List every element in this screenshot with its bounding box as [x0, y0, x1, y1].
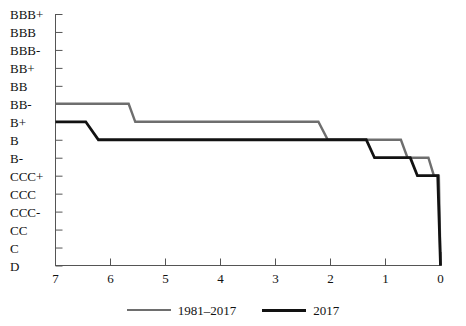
series-line-2017: [56, 122, 441, 266]
x-axis-tick-label: 3: [263, 272, 289, 285]
legend-line-swatch-icon: [127, 309, 171, 311]
legend-label-1981-2017: 1981–2017: [178, 304, 237, 317]
rating-transition-chart: BBB+BBBBBB-BB+BBBB-B+BB-CCC+CCCCCC-CCCD …: [0, 0, 466, 326]
y-axis-tick-label: BBB: [10, 26, 36, 39]
x-axis-tick-label: 5: [153, 272, 179, 285]
x-axis-tick-label: 4: [208, 272, 234, 285]
y-axis-tick-label: CCC-: [10, 206, 40, 219]
y-axis-tick-label: D: [10, 260, 19, 273]
x-axis-ticks: [56, 259, 441, 266]
x-axis-tick-label: 2: [318, 272, 344, 285]
y-axis-tick-label: BBB+: [10, 8, 43, 21]
legend-label-2017: 2017: [313, 304, 339, 317]
y-axis-tick-label: CCC: [10, 188, 36, 201]
series-layer: [56, 104, 441, 266]
x-axis-tick-label: 0: [428, 272, 454, 285]
y-axis-tick-label: CC: [10, 224, 27, 237]
x-axis-tick-label: 1: [373, 272, 399, 285]
y-axis-tick-label: BB: [10, 80, 27, 93]
y-axis-tick-label: CCC+: [10, 170, 43, 183]
y-axis-tick-label: B+: [10, 116, 26, 129]
legend-line-swatch-icon: [262, 309, 306, 312]
y-axis-tick-label: BBB-: [10, 44, 40, 57]
series-line-1981-2017: [56, 104, 441, 266]
y-axis-tick-label: B: [10, 134, 19, 147]
y-axis-tick-label: BB+: [10, 62, 35, 75]
legend-item-1981-2017[interactable]: 1981–2017: [127, 304, 237, 317]
x-axis-tick-label: 6: [98, 272, 124, 285]
legend-item-2017[interactable]: 2017: [262, 304, 339, 317]
y-axis-tick-label: C: [10, 242, 19, 255]
y-axis-tick-label: B-: [10, 152, 23, 165]
y-axis-ticks: [56, 15, 63, 267]
y-axis-tick-label: BB-: [10, 98, 32, 111]
x-axis-tick-label: 7: [43, 272, 69, 285]
chart-legend: 1981–2017 2017: [0, 297, 466, 323]
